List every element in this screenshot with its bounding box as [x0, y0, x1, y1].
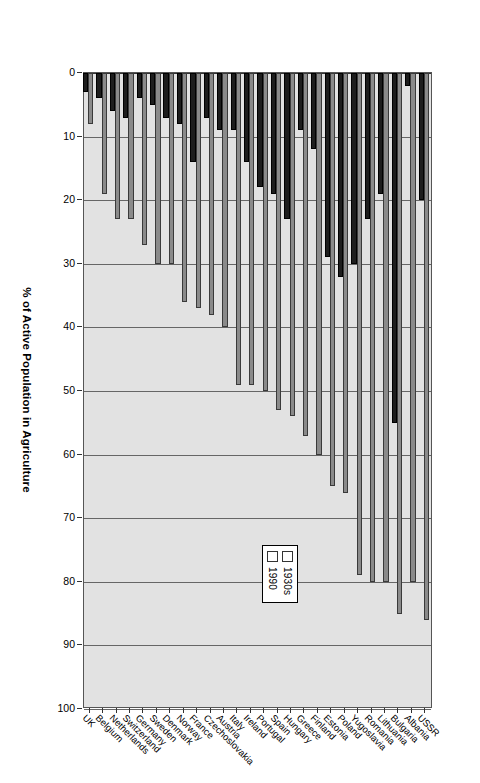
bar-1990 — [325, 73, 330, 257]
bar-1930s — [383, 73, 388, 582]
bar-group — [378, 73, 388, 707]
bar-1930s — [330, 73, 335, 486]
bar-1990 — [378, 73, 383, 194]
bar-1930s — [236, 73, 241, 385]
value-axis-tick-label: 60 — [63, 448, 75, 460]
bar-1990 — [110, 73, 115, 111]
bar-group — [217, 73, 227, 707]
bar-1990 — [177, 73, 182, 124]
value-axis-tick-label: 70 — [63, 511, 75, 523]
bar-1930s — [343, 73, 348, 493]
bar-1930s — [142, 73, 147, 245]
bar-1990 — [392, 73, 397, 423]
bar-group — [231, 73, 241, 707]
bar-1930s — [155, 73, 160, 264]
value-axis-tick-label: 0 — [69, 66, 75, 78]
bar-group — [83, 73, 93, 707]
bar-group — [405, 73, 415, 707]
value-axis-tick-label: 40 — [63, 320, 75, 332]
bar-group — [123, 73, 133, 707]
bar-1930s — [88, 73, 93, 124]
category-axis-tick — [142, 708, 143, 713]
bar-1930s — [196, 73, 201, 308]
category-axis-tick — [397, 708, 398, 713]
value-axis-tick — [77, 72, 82, 73]
bar-1930s — [290, 73, 295, 416]
bar-1930s — [424, 73, 429, 620]
value-axis-tick — [77, 263, 82, 264]
bar-1990 — [284, 73, 289, 219]
bar-group — [244, 73, 254, 707]
legend-swatch-1990 — [267, 551, 278, 562]
bar-group — [338, 73, 348, 707]
bar-1990 — [190, 73, 195, 162]
bar-1990 — [351, 73, 356, 264]
bar-1990 — [405, 73, 410, 86]
value-axis-tick-label: 10 — [63, 130, 75, 142]
bar-group — [311, 73, 321, 707]
bar-1990 — [311, 73, 316, 149]
bar-group — [110, 73, 120, 707]
bar-1990 — [204, 73, 209, 118]
chart-figure-stage: 1930s 1990 0102030405060708090100 % of A… — [0, 0, 480, 783]
bar-group — [284, 73, 294, 707]
bar-group — [365, 73, 375, 707]
category-axis: USSRAlbaniaBulgariaLithuaniaRomaniaYugos… — [83, 708, 432, 780]
bar-1930s — [410, 73, 415, 582]
chart-legend: 1930s 1990 — [262, 545, 298, 603]
bar-1990 — [244, 73, 249, 162]
bar-1990 — [298, 73, 303, 130]
bar-1930s — [115, 73, 120, 219]
bar-group — [298, 73, 308, 707]
bar-group — [351, 73, 361, 707]
bar-chart-figure: 1930s 1990 0102030405060708090100 % of A… — [0, 0, 480, 783]
bar-1930s — [209, 73, 214, 315]
bar-1990 — [231, 73, 236, 130]
value-axis-tick-label: 50 — [63, 384, 75, 396]
bar-group — [257, 73, 267, 707]
bar-1990 — [163, 73, 168, 118]
bar-1930s — [397, 73, 402, 614]
bar-group — [419, 73, 429, 707]
bar-1990 — [150, 73, 155, 105]
bar-1930s — [357, 73, 362, 575]
bar-group — [392, 73, 402, 707]
legend-item-1990: 1990 — [267, 551, 278, 595]
bar-group — [190, 73, 200, 707]
bar-1930s — [316, 73, 321, 455]
value-axis-tick-label: 90 — [63, 638, 75, 650]
category-axis-tick — [303, 708, 304, 713]
bar-group — [96, 73, 106, 707]
category-label-uk: UK — [80, 712, 97, 729]
bar-1930s — [303, 73, 308, 436]
bar-1930s — [222, 73, 227, 327]
legend-swatch-1930s — [282, 551, 293, 562]
legend-label-1930s: 1930s — [283, 567, 293, 595]
legend-item-1930s: 1930s — [282, 551, 293, 595]
bar-1990 — [217, 73, 222, 130]
value-axis-title: % of Active Population in Agriculture — [21, 72, 33, 708]
bar-1990 — [123, 73, 128, 118]
bar-1930s — [276, 73, 281, 410]
plot-area — [83, 72, 432, 708]
bar-1990 — [365, 73, 370, 219]
value-axis-tick — [77, 517, 82, 518]
value-axis-tick — [77, 136, 82, 137]
value-axis-tick-label: 20 — [63, 193, 75, 205]
bar-1990 — [137, 73, 142, 98]
bar-1990 — [419, 73, 424, 200]
bar-1990 — [83, 73, 88, 92]
value-axis-tick-label: 100 — [57, 702, 75, 714]
bar-group — [163, 73, 173, 707]
bar-group — [177, 73, 187, 707]
value-axis-tick — [77, 454, 82, 455]
value-axis-tick — [77, 199, 82, 200]
value-axis-tick-label: 80 — [63, 575, 75, 587]
bar-group — [150, 73, 160, 707]
value-axis-tick — [77, 581, 82, 582]
bar-group — [204, 73, 214, 707]
value-axis: 0102030405060708090100 — [36, 72, 82, 708]
value-axis-tick — [77, 644, 82, 645]
bar-1990 — [96, 73, 101, 98]
bar-1930s — [102, 73, 107, 194]
